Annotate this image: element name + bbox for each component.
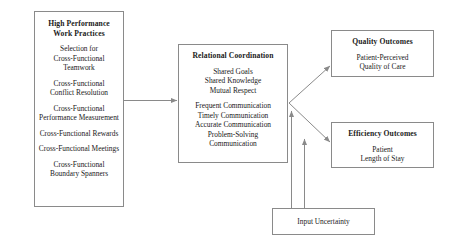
outcome-group: Patient Length of Stay [332,145,433,164]
box-high-performance-work-practices: High Performance Work Practices Selectio… [34,11,124,207]
arrow-relational-coordination-to-efficiency [289,103,330,142]
box-quality-outcomes: Quality Outcomes Patient-Perceived Quali… [331,30,434,77]
box-input-uncertainty: Input Uncertainty [272,208,375,235]
box-title: Quality Outcomes [332,37,433,47]
box-title: High Performance Work Practices [35,19,123,38]
box-efficiency-outcomes: Efficiency Outcomes Patient Length of St… [331,122,434,168]
box-title: Efficiency Outcomes [332,129,433,139]
practice-group: Cross-Functional Performance Measurement [35,104,123,123]
dimension-group: Frequent Communication Timely Communicat… [179,101,287,149]
arrow-relational-coordination-to-quality [289,66,330,103]
practice-group: Cross-Functional Rewards [35,129,123,139]
box-title: Input Uncertainty [273,217,374,227]
dimension-group: Shared Goals Shared Knowledge Mutual Res… [179,67,287,96]
outcome-group: Patient-Perceived Quality of Care [332,53,433,72]
practice-group: Selection for Cross-Functional Teamwork [35,44,123,73]
box-title: Relational Coordination [179,51,287,61]
practice-group: Cross-Functional Boundary Spanners [35,160,123,179]
practice-group: Cross-Functional Conflict Resolution [35,79,123,98]
practice-group: Cross-Functional Meetings [35,144,123,154]
box-relational-coordination: Relational Coordination Shared Goals Sha… [178,44,288,163]
